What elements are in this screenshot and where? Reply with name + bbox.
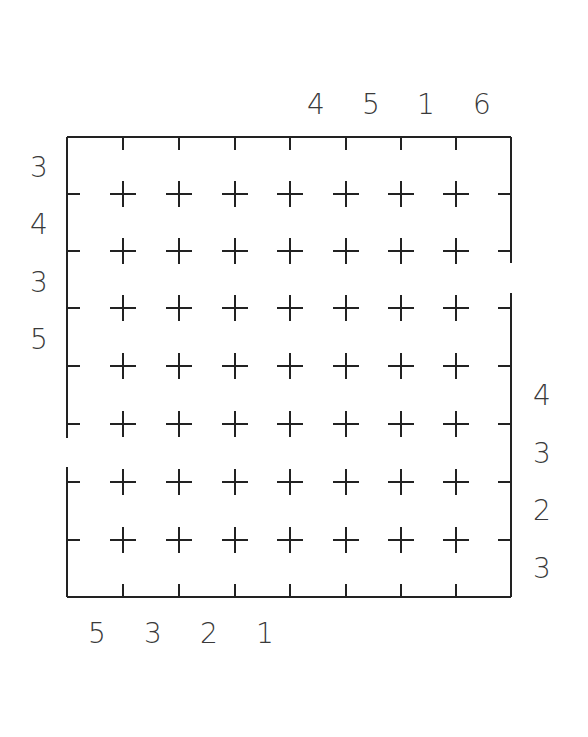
plus-intersection[interactable] (222, 181, 248, 207)
plus-intersection[interactable] (166, 295, 192, 321)
clue-left: 3 (30, 154, 48, 182)
plus-intersection[interactable] (333, 353, 359, 379)
plus-intersection[interactable] (388, 295, 414, 321)
clue-top: 1 (417, 91, 435, 119)
plus-intersection[interactable] (333, 238, 359, 264)
plus-intersection[interactable] (443, 411, 469, 437)
plus-intersection[interactable] (277, 181, 303, 207)
plus-intersection[interactable] (277, 295, 303, 321)
clue-right: 2 (533, 497, 551, 525)
plus-intersection[interactable] (277, 238, 303, 264)
plus-intersection[interactable] (166, 527, 192, 553)
plus-intersection[interactable] (166, 411, 192, 437)
clue-right: 3 (533, 440, 551, 468)
plus-intersection[interactable] (277, 469, 303, 495)
plus-intersection[interactable] (222, 295, 248, 321)
plus-intersection[interactable] (110, 353, 136, 379)
plus-intersection[interactable] (388, 411, 414, 437)
plus-intersection[interactable] (277, 353, 303, 379)
plus-intersection[interactable] (166, 353, 192, 379)
clue-top: 5 (362, 91, 380, 119)
plus-intersection[interactable] (166, 469, 192, 495)
plus-intersection[interactable] (333, 411, 359, 437)
plus-intersection[interactable] (166, 181, 192, 207)
plus-intersection[interactable] (388, 181, 414, 207)
plus-intersection[interactable] (388, 527, 414, 553)
plus-intersection[interactable] (277, 411, 303, 437)
clue-left: 4 (30, 211, 48, 239)
plus-intersection[interactable] (222, 527, 248, 553)
plus-intersection[interactable] (277, 527, 303, 553)
clue-right: 4 (533, 382, 551, 410)
clue-left: 5 (30, 326, 48, 354)
clue-right: 3 (533, 555, 551, 583)
plus-intersection[interactable] (388, 469, 414, 495)
grid-intersections[interactable] (110, 181, 469, 553)
plus-intersection[interactable] (333, 295, 359, 321)
plus-intersection[interactable] (222, 469, 248, 495)
plus-intersection[interactable] (222, 353, 248, 379)
clue-bottom: 3 (144, 620, 162, 648)
clue-bottom: 5 (88, 620, 106, 648)
plus-intersection[interactable] (443, 238, 469, 264)
plus-intersection[interactable] (443, 527, 469, 553)
plus-intersection[interactable] (443, 295, 469, 321)
plus-intersection[interactable] (443, 353, 469, 379)
plus-intersection[interactable] (333, 527, 359, 553)
plus-intersection[interactable] (443, 469, 469, 495)
clue-bottom: 1 (256, 620, 274, 648)
plus-intersection[interactable] (333, 469, 359, 495)
plus-intersection[interactable] (110, 295, 136, 321)
plus-intersection[interactable] (333, 181, 359, 207)
plus-intersection[interactable] (388, 353, 414, 379)
clue-bottom: 2 (200, 620, 218, 648)
plus-intersection[interactable] (166, 238, 192, 264)
plus-intersection[interactable] (443, 181, 469, 207)
plus-intersection[interactable] (110, 527, 136, 553)
plus-intersection[interactable] (110, 411, 136, 437)
plus-intersection[interactable] (110, 238, 136, 264)
plus-intersection[interactable] (222, 238, 248, 264)
plus-intersection[interactable] (222, 411, 248, 437)
plus-intersection[interactable] (388, 238, 414, 264)
plus-intersection[interactable] (110, 181, 136, 207)
plus-intersection[interactable] (110, 469, 136, 495)
clue-left: 3 (30, 269, 48, 297)
clue-top: 4 (307, 91, 325, 119)
clue-top: 6 (473, 91, 491, 119)
